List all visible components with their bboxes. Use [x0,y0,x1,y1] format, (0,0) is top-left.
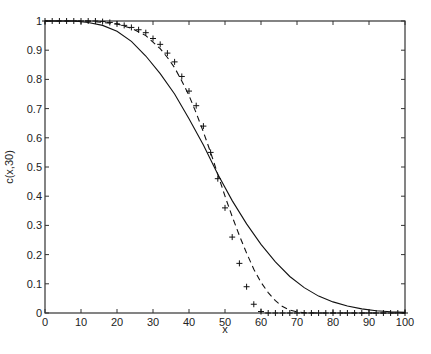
y-tick-label: 0.9 [27,44,42,56]
y-tick-label: 0.6 [27,132,42,144]
chart: 0102030405060708090100 00.10.20.30.40.50… [0,0,431,354]
y-tick-label: 0.7 [27,103,42,115]
x-tick-label: 60 [255,316,267,328]
x-tick-labels: 0102030405060708090100 [42,316,414,328]
y-tick-label: 0.8 [27,73,42,85]
y-tick-label: 0 [36,307,42,319]
x-tick-label: 90 [363,316,375,328]
plot-area [45,21,405,313]
x-tick-label: 30 [147,316,159,328]
x-tick-label: 10 [75,316,87,328]
x-tick-label: 0 [42,316,48,328]
y-axis-label: c(x,30) [3,150,15,184]
y-tick-label: 0.1 [27,278,42,290]
y-tick-labels: 00.10.20.30.40.50.60.70.80.91 [27,15,42,319]
y-tick-label: 0.2 [27,249,42,261]
x-axis-label: x [222,323,228,335]
y-tick-label: 0.5 [27,161,42,173]
x-tick-label: 100 [396,316,414,328]
x-tick-label: 80 [327,316,339,328]
x-tick-label: 70 [291,316,303,328]
x-tick-label: 20 [111,316,123,328]
y-tick-label: 1 [36,15,42,27]
y-tick-label: 0.4 [27,190,42,202]
x-tick-label: 40 [183,316,195,328]
y-tick-label: 0.3 [27,219,42,231]
